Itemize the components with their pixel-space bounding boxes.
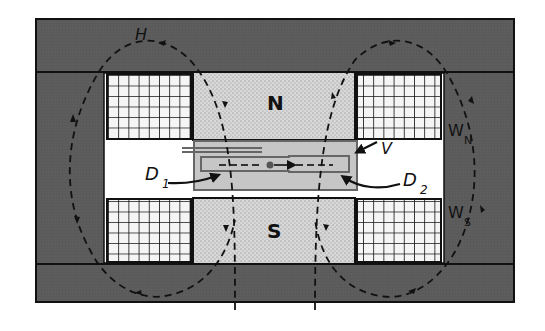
svg-text:W: W: [448, 121, 464, 140]
coil-winding-south-right: [357, 199, 441, 262]
coil-winding-north-right: [357, 74, 441, 139]
vacuum-chamber: [182, 141, 357, 190]
cyclotron-diagram: H N S V D 1 D 2 W N W S: [0, 0, 545, 331]
coil-winding-south-left: [107, 199, 191, 262]
svg-text:D: D: [403, 169, 417, 190]
label-vacuum-chamber: V: [381, 139, 393, 158]
svg-text:W: W: [448, 203, 464, 222]
coil-winding-north-left: [107, 74, 191, 139]
label-field-h: H: [135, 25, 147, 44]
label-north-pole: N: [267, 91, 284, 115]
svg-text:1: 1: [162, 177, 170, 191]
svg-text:S: S: [464, 216, 471, 229]
svg-text:2: 2: [420, 183, 428, 197]
svg-text:D: D: [145, 163, 159, 184]
ion-source: [267, 162, 274, 169]
svg-text:N: N: [464, 134, 472, 147]
label-south-pole: S: [267, 219, 281, 243]
